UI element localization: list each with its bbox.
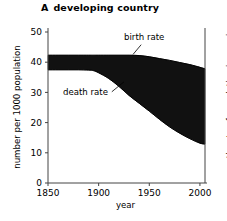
y-tick-label: 10 [31,148,43,158]
y-tick-label: 40 [31,57,43,67]
y-tick-label: 30 [31,88,43,98]
x-tick-label: 1850 [37,188,60,198]
birth-rate-annotation-leader [133,45,141,55]
y-tick-label: 50 [31,27,43,37]
y-tick-label: 20 [31,118,43,128]
birth-rate-annotation-label: birth rate [124,32,164,42]
x-tick-label: 2000 [188,188,211,198]
plot-area: 010203040501850190019502000 birth ratede… [0,0,227,221]
x-tick-label: 1900 [87,188,110,198]
area-band [48,55,205,144]
y-tick-label: 0 [36,178,42,188]
x-tick-label: 1950 [138,188,161,198]
figure-container: Adeveloping country number per 1000 popu… [0,0,227,221]
death-rate-annotation-label: death rate [63,87,108,97]
